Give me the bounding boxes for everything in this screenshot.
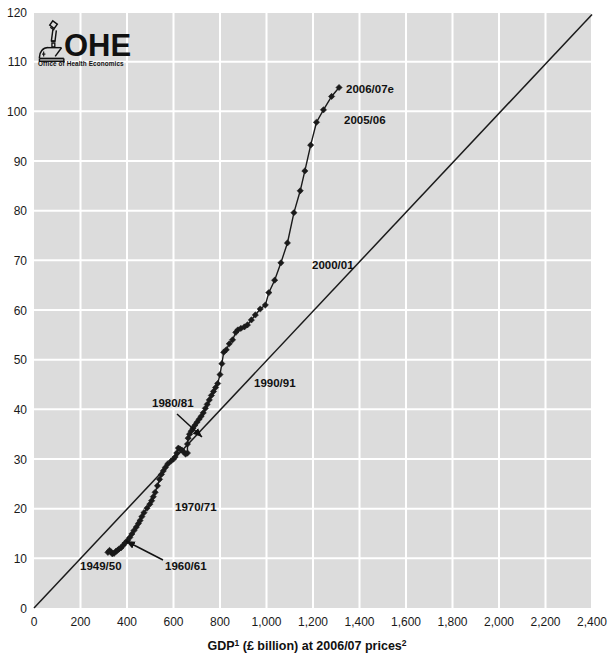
chart-canvas: 02004006008001,0001,2001,4001,6001,8002,… [0,0,614,662]
ohe-logo: OHE Office of Health Economics [38,21,131,67]
y-tick-label: 60 [14,304,28,318]
x-tick-label: 2,000 [484,615,514,629]
annotation-label-a1980: 1980/81 [152,397,194,409]
annotation-label-a2005: 2005/06 [344,114,386,126]
y-tick-label: 40 [14,403,28,417]
x-tick-label: 2,400 [577,615,607,629]
x-tick-label: 2,200 [530,615,560,629]
logo-tagline: Office of Health Economics [38,60,124,67]
y-tick-label: 120 [7,6,27,20]
annotation-label-a2006: 2006/07e [346,83,394,95]
y-tick-label: 70 [14,254,28,268]
annotation-label-a1970: 1970/71 [175,501,217,513]
annotation-label-a1949: 1949/50 [80,560,122,572]
x-tick-label: 800 [210,615,230,629]
y-tick-label: 110 [8,55,27,69]
y-tick-label: 50 [14,353,28,367]
annotation-label-a1960: 1960/61 [165,560,207,572]
y-tick-label: 10 [14,552,28,566]
gdp-chart-figure: 02004006008001,0001,2001,4001,6001,8002,… [0,0,614,662]
annotation-label-a1990: 1990/91 [254,377,296,389]
annotation-label-a2000: 2000/01 [312,259,354,271]
y-tick-label: 90 [14,155,28,169]
y-tick-label: 0 [20,602,27,616]
x-tick-label: 400 [117,615,137,629]
x-tick-label: 600 [163,615,183,629]
x-tick-label: 1,600 [391,615,421,629]
y-tick-label: 30 [14,453,28,467]
x-tick-label: 1,200 [298,615,328,629]
y-tick-label: 100 [7,105,27,119]
x-tick-label: 1,400 [344,615,374,629]
x-tick-label: 200 [70,615,90,629]
x-tick-label: 1,000 [251,615,281,629]
y-tick-label: 20 [14,502,28,516]
x-tick-label: 0 [31,615,38,629]
x-tick-label: 1,800 [437,615,467,629]
logo-wordmark: OHE [64,28,131,63]
y-tick-label: 80 [14,204,28,218]
